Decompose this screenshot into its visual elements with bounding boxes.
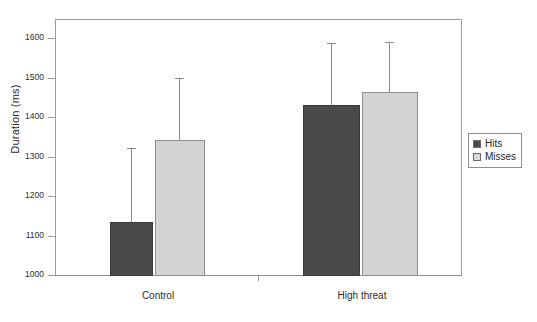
y-axis-tick-mark: [48, 38, 55, 39]
y-axis-tick-1200: 1200: [0, 196, 55, 197]
y-axis-title: Duration (ms): [9, 59, 21, 179]
y-axis-tick-mark: [48, 236, 55, 237]
legend-item-misses: Misses: [473, 150, 516, 163]
legend-item-hits: Hits: [473, 137, 516, 150]
error-bar-high-threat-hits-cap: [327, 43, 336, 44]
y-axis-tick-label-1200: 1200: [25, 190, 44, 200]
error-bar-control-misses-cap: [175, 78, 184, 79]
bar-high-threat-misses: [362, 92, 418, 276]
plot-area: [55, 19, 462, 276]
x-axis-label-high-threat: High threat: [338, 290, 387, 301]
error-bar-control-hits-cap: [127, 148, 136, 149]
legend-swatch-misses-icon: [473, 153, 481, 161]
bar-high-threat-hits: [303, 105, 360, 276]
y-axis-tick-mark: [48, 117, 55, 118]
y-axis-tick-1600: 1600: [0, 38, 55, 39]
chart-legend: Hits Misses: [468, 133, 522, 168]
y-axis-tick-label-1100: 1100: [26, 230, 44, 240]
bar-control-hits: [110, 222, 153, 276]
y-axis-tick-label-1400: 1400: [25, 111, 44, 121]
y-axis-tick-mark: [48, 157, 55, 158]
x-axis-label-control: Control: [142, 290, 174, 301]
error-bar-control-misses-stem: [179, 78, 180, 140]
error-bar-high-threat-misses-stem: [389, 42, 390, 92]
legend-label-hits: Hits: [485, 138, 502, 149]
error-bar-high-threat-misses-cap: [385, 42, 394, 43]
y-axis-tick-mark: [48, 196, 55, 197]
y-axis-tick-label-1500: 1500: [25, 72, 44, 82]
y-axis-tick-mark: [48, 275, 55, 276]
y-axis-tick-1100: 1100: [0, 236, 55, 237]
legend-label-misses: Misses: [485, 151, 516, 162]
y-axis-tick-label-1600: 1600: [25, 32, 44, 42]
x-axis-group-separator-tick: [258, 275, 259, 281]
error-bar-control-hits-stem: [131, 148, 132, 222]
y-axis-tick-label-1300: 1300: [25, 151, 44, 161]
bar-chart-figure: Duration (ms) 1600 1500 1400 1300 1200 1…: [0, 0, 537, 322]
error-bar-high-threat-hits-stem: [331, 43, 332, 105]
y-axis-tick-1400: 1400: [0, 117, 55, 118]
y-axis-tick-1300: 1300: [0, 157, 55, 158]
bar-control-misses: [155, 140, 205, 276]
legend-swatch-hits-icon: [473, 140, 481, 148]
y-axis-tick-1000: 1000: [0, 275, 55, 276]
y-axis-tick-mark: [48, 78, 55, 79]
y-axis-tick-1500: 1500: [0, 78, 55, 79]
y-axis-tick-label-1000: 1000: [25, 269, 44, 279]
